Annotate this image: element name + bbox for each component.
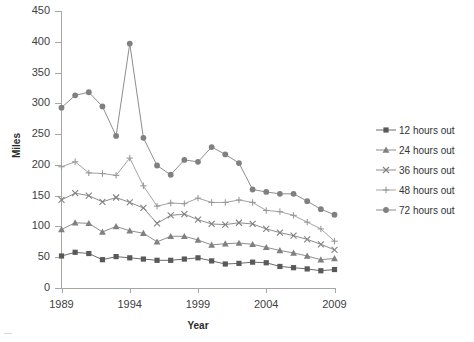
data-point-circle [383, 207, 389, 213]
data-point-square [223, 261, 228, 266]
data-point-x [291, 233, 297, 239]
data-point-x [318, 241, 324, 247]
data-point-plus [290, 212, 296, 218]
data-point-circle [168, 172, 174, 178]
data-point-x [332, 247, 338, 253]
legend-label: 48 hours out [399, 185, 455, 196]
data-point-triangle [154, 238, 161, 244]
chart-legend: 12 hours out24 hours out36 hours out48 h… [374, 120, 472, 220]
data-point-circle [209, 144, 215, 150]
legend-marker-triangle-icon [374, 143, 398, 157]
data-point-plus [154, 203, 160, 209]
data-point-square [100, 257, 105, 262]
data-point-plus [140, 183, 146, 189]
data-point-square [291, 265, 296, 270]
data-point-plus [58, 164, 64, 170]
data-point-x [277, 230, 283, 236]
data-point-plus [277, 208, 283, 214]
frame-artifact [4, 333, 12, 334]
data-point-circle [222, 152, 228, 158]
data-point-plus [181, 200, 187, 206]
legend-marker-square-icon [374, 123, 398, 137]
data-point-circle [291, 191, 297, 197]
data-point-plus [99, 170, 105, 176]
legend-item-1[interactable]: 24 hours out [374, 140, 472, 160]
data-point-triangle [99, 229, 106, 235]
data-point-square [209, 258, 214, 263]
legend-label: 36 hours out [399, 165, 455, 176]
data-point-circle [318, 206, 324, 212]
data-point-square [86, 251, 91, 256]
data-point-x [263, 226, 269, 232]
legend-item-4[interactable]: 72 hours out [374, 200, 472, 220]
legend-item-0[interactable]: 12 hours out [374, 120, 472, 140]
data-point-circle [113, 133, 119, 139]
data-point-x [59, 197, 65, 203]
data-point-plus [168, 200, 174, 206]
chart-figure: Miles 450400350300250200150100500 198919… [0, 0, 474, 342]
data-point-square [332, 267, 337, 272]
data-point-circle [59, 105, 65, 111]
data-point-triangle [58, 226, 65, 232]
data-point-plus [249, 199, 255, 205]
data-point-triangle [331, 255, 338, 261]
data-point-circle [250, 187, 256, 193]
data-point-plus [236, 197, 242, 203]
legend-marker-circle-icon [374, 203, 398, 217]
data-point-x [195, 217, 201, 223]
data-point-plus [263, 207, 269, 213]
data-point-square [305, 266, 310, 271]
data-point-plus [222, 199, 228, 205]
legend-marker-x-icon [374, 163, 398, 177]
data-point-circle [181, 157, 187, 163]
data-point-square [59, 253, 64, 258]
legend-item-3[interactable]: 48 hours out [374, 180, 472, 200]
data-point-circle [127, 41, 133, 47]
data-point-square [195, 255, 200, 260]
data-point-square [250, 260, 255, 265]
data-point-circle [100, 104, 106, 110]
data-point-circle [72, 92, 78, 98]
legend-label: 24 hours out [399, 145, 455, 156]
data-point-square [73, 250, 78, 255]
data-point-circle [277, 191, 283, 197]
legend-item-2[interactable]: 36 hours out [374, 160, 472, 180]
data-point-square [264, 260, 269, 265]
data-point-square [318, 268, 323, 273]
data-point-square [182, 256, 187, 261]
data-point-square [383, 127, 388, 132]
data-point-square [127, 255, 132, 260]
data-point-circle [236, 160, 242, 166]
series-4 [59, 41, 338, 218]
legend-marker-plus-icon [374, 183, 398, 197]
data-point-square [114, 254, 119, 259]
data-point-square [154, 258, 159, 263]
data-point-circle [86, 89, 92, 95]
legend-label: 72 hours out [399, 205, 455, 216]
data-point-plus [195, 195, 201, 201]
data-point-circle [141, 135, 147, 141]
data-point-plus [208, 199, 214, 205]
data-point-circle [304, 198, 310, 204]
data-point-square [141, 256, 146, 261]
legend-label: 12 hours out [399, 125, 455, 136]
data-point-circle [195, 159, 201, 165]
data-point-plus [304, 219, 310, 225]
data-point-square [277, 264, 282, 269]
data-point-circle [263, 189, 269, 195]
data-point-triangle [113, 223, 120, 229]
data-point-plus [383, 187, 389, 193]
data-point-square [236, 261, 241, 266]
data-point-x [113, 195, 119, 201]
data-point-circle [154, 163, 160, 169]
data-point-x [304, 236, 310, 242]
data-point-circle [332, 212, 338, 218]
data-point-x [99, 199, 105, 205]
data-point-x [127, 199, 133, 205]
series-line [62, 44, 335, 215]
data-point-x [140, 205, 146, 211]
data-point-x [154, 220, 160, 226]
data-point-square [168, 258, 173, 263]
